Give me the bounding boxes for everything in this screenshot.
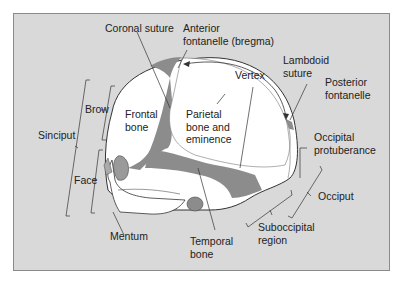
label-anterior-fontanelle: Anterior fontanelle (bregma) bbox=[183, 22, 274, 47]
posterior-fontanelle-line1: Posterior bbox=[325, 76, 367, 88]
temporal-line2: bone bbox=[190, 248, 213, 260]
occipital-protuberance-line2: protuberance bbox=[314, 144, 376, 156]
label-brow: Brow bbox=[85, 103, 109, 116]
label-mentum: Mentum bbox=[110, 230, 148, 243]
label-temporal-bone: Temporal bone bbox=[190, 235, 233, 260]
parietal-line2: bone and bbox=[186, 121, 230, 133]
label-frontal-bone: Frontal bone bbox=[125, 108, 158, 133]
frontal-line1: Frontal bbox=[125, 108, 158, 120]
occipital-protuberance-line1: Occipital bbox=[314, 131, 354, 143]
ear-opening bbox=[187, 197, 203, 211]
label-face: Face bbox=[74, 174, 97, 187]
label-vertex: Vertex bbox=[235, 69, 265, 82]
posterior-fontanelle-line2: fontanelle bbox=[325, 89, 371, 101]
temporal-line1: Temporal bbox=[190, 235, 233, 247]
label-lambdoid-suture: Lambdoid suture bbox=[283, 54, 329, 79]
suboccipital-line2: region bbox=[258, 234, 287, 246]
posterior-fontanelle-leader bbox=[290, 84, 307, 120]
frontal-line2: bone bbox=[125, 121, 148, 133]
lambdoid-line1: Lambdoid bbox=[283, 54, 329, 66]
suboccipital-line1: Suboccipital bbox=[258, 221, 315, 233]
label-posterior-fontanelle: Posterior fontanelle bbox=[325, 76, 371, 101]
label-occiput: Occiput bbox=[318, 190, 354, 203]
label-suboccipital-region: Suboccipital region bbox=[258, 221, 315, 246]
label-sinciput: Sinciput bbox=[38, 129, 75, 142]
parietal-line1: Parietal bbox=[186, 108, 222, 120]
parietal-line3: eminence bbox=[186, 133, 232, 145]
label-parietal-bone: Parietal bone and eminence bbox=[186, 108, 232, 146]
anterior-fontanelle-line2: fontanelle (bregma) bbox=[183, 35, 274, 47]
label-occipital-protuberance: Occipital protuberance bbox=[314, 131, 376, 156]
label-coronal-suture: Coronal suture bbox=[105, 22, 174, 35]
occipital-protuberance-leader bbox=[300, 148, 307, 178]
lambdoid-line2: suture bbox=[283, 67, 312, 79]
anterior-fontanelle-line1: Anterior bbox=[183, 22, 220, 34]
